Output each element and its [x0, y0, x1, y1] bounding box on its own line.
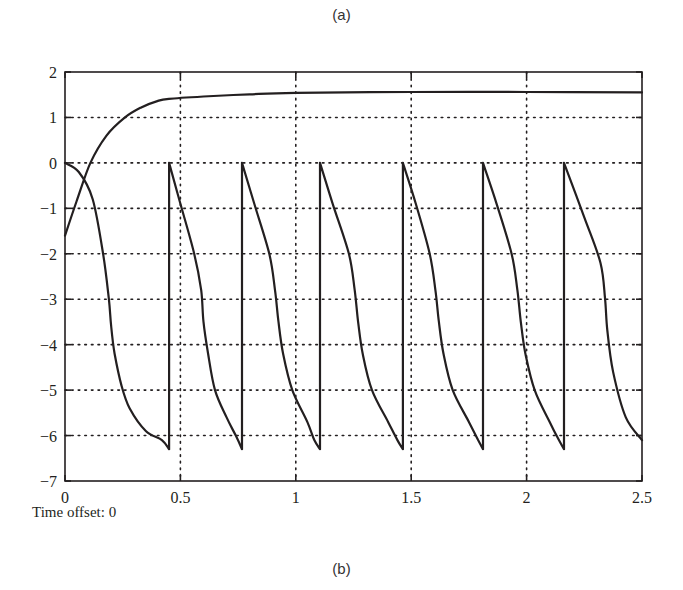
y-tick-label: −3 — [40, 291, 57, 308]
y-tick-label: −1 — [40, 200, 57, 217]
y-tick-label: −6 — [40, 428, 57, 445]
sawtooth-signal-line — [65, 163, 642, 449]
time-offset-note: Time offset: 0 — [32, 504, 116, 521]
line-chart: 00.511.522.5 210−1−2−3−4−5−6−7 — [0, 0, 683, 590]
y-tick-label: −7 — [40, 473, 57, 490]
x-tick-label: 0.5 — [170, 489, 190, 506]
x-axis-tick-labels: 00.511.522.5 — [61, 489, 652, 506]
y-tick-label: −4 — [40, 337, 57, 354]
y-tick-label: 1 — [49, 109, 57, 126]
panel-label-b: (b) — [0, 560, 683, 577]
y-tick-label: −2 — [40, 246, 57, 263]
x-tick-label: 1 — [292, 489, 300, 506]
data-series — [65, 92, 642, 449]
x-tick-label: 2 — [523, 489, 531, 506]
y-axis-tick-labels: 210−1−2−3−4−5−6−7 — [40, 64, 57, 490]
y-tick-label: 2 — [49, 64, 57, 81]
y-tick-label: −5 — [40, 382, 57, 399]
saturating-signal-line — [65, 92, 642, 236]
x-tick-label: 1.5 — [401, 489, 421, 506]
y-tick-label: 0 — [49, 155, 57, 172]
x-tick-label: 2.5 — [632, 489, 652, 506]
